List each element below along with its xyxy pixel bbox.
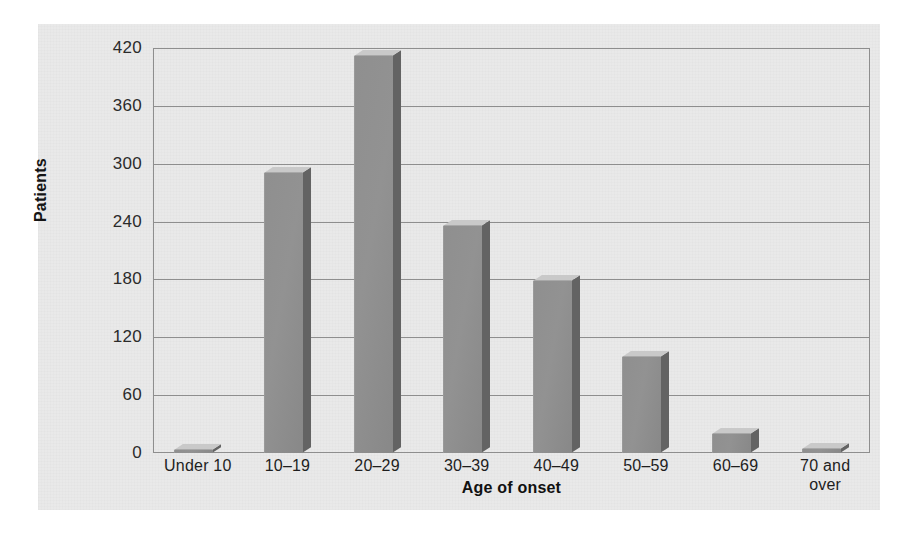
plot-area: [153, 48, 870, 453]
gridline-120: [154, 337, 869, 338]
x-tick-label-line: 10–19: [243, 456, 333, 475]
x-tick-label: 20–29: [332, 456, 422, 475]
gridline-180: [154, 279, 869, 280]
x-tick-label-line: 20–29: [332, 456, 422, 475]
scanned-figure-page: Patients 060120180240300360420 Under 101…: [0, 0, 912, 537]
y-tick-label: 0: [80, 443, 142, 463]
y-tick-label: 60: [80, 385, 142, 405]
x-tick-label-line: 50–59: [601, 456, 691, 475]
x-tick-label: 10–19: [243, 456, 333, 475]
x-tick-label-line: 30–39: [422, 456, 512, 475]
y-tick-label: 420: [80, 38, 142, 58]
figure-panel: Patients 060120180240300360420 Under 101…: [38, 24, 880, 510]
cropped-caption-text: [338, 2, 758, 22]
x-tick-label-line: Under 10: [153, 456, 243, 475]
x-tick-label: 30–39: [422, 456, 512, 475]
y-tick-label: 360: [80, 96, 142, 116]
y-tick-label: 240: [80, 212, 142, 232]
y-axis-title: Patients: [32, 158, 50, 222]
gridline-240: [154, 222, 869, 223]
gridline-60: [154, 395, 869, 396]
x-tick-label: 50–59: [601, 456, 691, 475]
y-tick-label: 120: [80, 327, 142, 347]
y-tick-label: 300: [80, 154, 142, 174]
x-tick-label-line: 40–49: [512, 456, 602, 475]
y-axis-tick-labels: 060120180240300360420: [76, 48, 142, 453]
x-tick-label: 60–69: [691, 456, 781, 475]
x-tick-label-line: 60–69: [691, 456, 781, 475]
x-tick-label: Under 10: [153, 456, 243, 475]
gridline-420: [154, 48, 869, 49]
x-tick-label-line: 70 and: [780, 456, 870, 475]
y-tick-label: 180: [80, 269, 142, 289]
gridline-360: [154, 106, 869, 107]
gridline-300: [154, 164, 869, 165]
x-tick-label: 40–49: [512, 456, 602, 475]
x-axis-title: Age of onset: [153, 479, 870, 497]
